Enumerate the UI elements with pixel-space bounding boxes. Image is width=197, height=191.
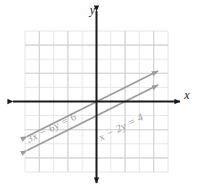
graph-figure: y x 3x − 6y = 6 x − 2y = 4 <box>0 0 197 191</box>
x-axis-label: x <box>183 88 190 102</box>
coordinate-plane: y x 3x − 6y = 6 x − 2y = 4 <box>0 0 197 191</box>
data-lines <box>27 71 158 151</box>
axes <box>13 11 180 183</box>
y-axis-label: y <box>89 3 96 17</box>
